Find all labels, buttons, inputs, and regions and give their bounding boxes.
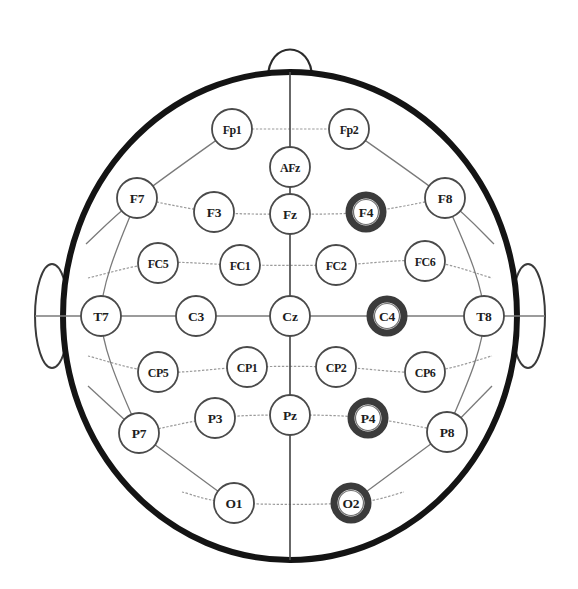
electrode-c4[interactable]: C4 [370,299,404,333]
electrode-disc[interactable] [370,299,404,333]
electrode-pz[interactable]: Pz [270,395,310,435]
electrode-disc[interactable] [316,347,356,387]
electrode-disc[interactable] [117,178,157,218]
electrode-disc[interactable] [270,194,310,234]
electrode-disc[interactable] [119,413,159,453]
electrode-disc[interactable] [270,147,310,187]
electrode-cp1[interactable]: CP1 [227,347,267,387]
electrode-fc2[interactable]: FC2 [316,245,356,285]
electrode-disc[interactable] [464,296,504,336]
electrode-fp2[interactable]: Fp2 [329,109,369,149]
electrode-p4[interactable]: P4 [351,401,385,435]
electrode-cp5[interactable]: CP5 [138,352,178,392]
electrode-p8[interactable]: P8 [427,412,467,452]
electrode-disc[interactable] [427,412,467,452]
electrode-disc[interactable] [195,398,235,438]
electrode-p3[interactable]: P3 [195,398,235,438]
electrode-disc[interactable] [351,401,385,435]
electrode-disc[interactable] [405,241,445,281]
electrode-disc[interactable] [176,296,216,336]
eeg-montage-canvas: Fp1Fp2AFzF7F3FzF4F8FC5FC1FC2FC6T7C3CzC4T… [0,0,578,589]
electrode-disc[interactable] [194,192,234,232]
electrode-disc[interactable] [405,352,445,392]
electrode-disc[interactable] [214,483,254,523]
electrode-fc5[interactable]: FC5 [138,243,178,283]
electrode-disc[interactable] [349,195,383,229]
electrode-fp1[interactable]: Fp1 [212,109,252,149]
electrode-fc1[interactable]: FC1 [220,245,260,285]
electrode-disc[interactable] [212,109,252,149]
electrode-afz[interactable]: AFz [270,147,310,187]
electrode-cp6[interactable]: CP6 [405,352,445,392]
electrode-t8[interactable]: T8 [464,296,504,336]
electrode-f3[interactable]: F3 [194,192,234,232]
electrode-disc[interactable] [81,296,121,336]
electrode-f4[interactable]: F4 [349,195,383,229]
electrode-disc[interactable] [316,245,356,285]
electrode-disc[interactable] [425,178,465,218]
electrode-disc[interactable] [227,347,267,387]
electrode-fz[interactable]: Fz [270,194,310,234]
electrode-disc[interactable] [270,395,310,435]
electrode-f7[interactable]: F7 [117,178,157,218]
electrode-t7[interactable]: T7 [81,296,121,336]
electrode-f8[interactable]: F8 [425,178,465,218]
electrode-disc[interactable] [138,352,178,392]
electrode-disc[interactable] [138,243,178,283]
electrode-fc6[interactable]: FC6 [405,241,445,281]
electrode-disc[interactable] [220,245,260,285]
electrode-o2[interactable]: O2 [334,486,368,520]
electrode-cp2[interactable]: CP2 [316,347,356,387]
eeg-montage-diagram: Fp1Fp2AFzF7F3FzF4F8FC5FC1FC2FC6T7C3CzC4T… [0,0,578,589]
electrode-disc[interactable] [270,296,310,336]
electrode-disc[interactable] [329,109,369,149]
electrode-p7[interactable]: P7 [119,413,159,453]
electrode-c3[interactable]: C3 [176,296,216,336]
electrode-o1[interactable]: O1 [214,483,254,523]
electrode-cz[interactable]: Cz [270,296,310,336]
